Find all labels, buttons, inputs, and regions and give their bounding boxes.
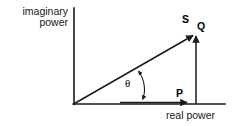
y-axis-label-line2: power: [39, 16, 68, 28]
vector-s-label: S: [182, 13, 189, 25]
vector-p-label: P: [176, 87, 183, 99]
phase-angle-label: θ: [125, 77, 130, 89]
phase-angle-arc: [139, 71, 145, 100]
x-axis-label: real power: [166, 110, 215, 121]
y-axis-label: imaginarypower: [2, 6, 68, 28]
vector-q-label: Q: [197, 20, 205, 32]
power-triangle-figure: imaginarypower real power S Q P θ: [0, 0, 232, 126]
